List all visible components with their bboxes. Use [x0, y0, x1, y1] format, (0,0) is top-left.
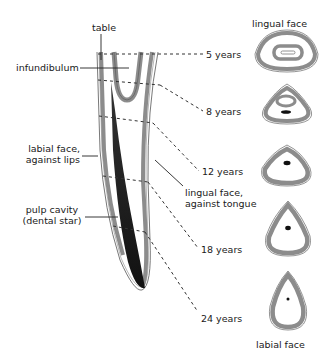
label-labial-face-line2: against lips — [10, 154, 80, 165]
label-labial-face-bottom: labial face — [256, 339, 305, 350]
label-age-24: 24 years — [201, 313, 242, 324]
diagram-artwork — [0, 0, 319, 354]
label-age-18: 18 years — [201, 244, 242, 255]
label-lingual-face-side: lingual face, against tongue — [185, 187, 256, 209]
label-age-12: 12 years — [202, 166, 243, 177]
label-age-5: 5 years — [206, 49, 241, 60]
cross-section-18-years — [265, 201, 310, 256]
label-infundibulum: infundibulum — [16, 62, 79, 73]
leader-lines — [80, 34, 183, 217]
label-lingual-side-line1: lingual face, — [185, 187, 256, 198]
cross-section-5-years — [255, 30, 318, 72]
label-table: table — [92, 22, 116, 33]
label-pulp-cavity: pulp cavity (dental star) — [20, 204, 84, 226]
cross-section-8-years — [262, 84, 311, 124]
tooth-longitudinal-section — [97, 52, 158, 290]
label-lingual-face-top: lingual face — [252, 18, 307, 29]
tooth-age-diagram: table infundibulum labial face, against … — [0, 0, 319, 354]
label-lingual-side-line2: against tongue — [185, 198, 256, 209]
cross-section-24-years — [269, 271, 306, 330]
label-labial-face-side: labial face, against lips — [10, 143, 80, 165]
label-pulp-line2: (dental star) — [20, 215, 84, 226]
cross-section-12-years — [262, 145, 312, 186]
label-age-8: 8 years — [206, 106, 241, 117]
age-dashed-lines — [98, 54, 203, 312]
label-labial-face-line1: labial face, — [10, 143, 80, 154]
label-pulp-line1: pulp cavity — [20, 204, 84, 215]
